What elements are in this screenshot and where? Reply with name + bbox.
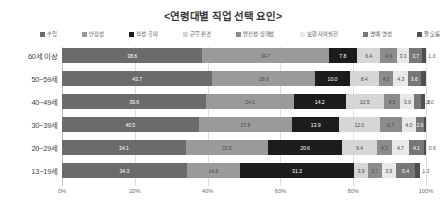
bar-segment-value-label: 1.0 — [428, 53, 435, 59]
bar-segment[interactable] — [424, 117, 426, 132]
bar-segment[interactable]: 4.6 — [380, 48, 397, 63]
bar-segment-value-label: 4.1 — [413, 145, 420, 151]
bar-segment-value-label: 5.4 — [402, 168, 409, 174]
legend-item-label: 명예·명성 — [370, 31, 391, 37]
bar-segment[interactable]: 31.3 — [240, 163, 354, 178]
bar-segment[interactable]: 12.0 — [339, 117, 379, 132]
bar-segment[interactable]: 34.3 — [62, 163, 187, 178]
legend-item-label: 근무 환경 — [190, 31, 211, 37]
bar-segment-value-label: 14.6 — [209, 168, 219, 174]
bar-segment[interactable] — [422, 48, 426, 63]
bar-segment-value-label: 4.2 — [381, 145, 388, 151]
chart-legend: 수입안정성적성·흥미근무 환경발전성·장래성보람·자아실현명예·명성잘 모름 — [40, 28, 440, 40]
bar-segment[interactable]: 14.6 — [187, 163, 240, 178]
bar-segment[interactable]: 43.7 — [62, 71, 212, 86]
bar-segment[interactable]: 3.6 — [408, 71, 420, 86]
legend-item[interactable]: 명예·명성 — [363, 31, 391, 37]
x-axis-tick-label: 40% — [202, 188, 213, 194]
stacked-bar-row: 38.634.77.86.44.63.33.7 — [62, 48, 426, 63]
legend-swatch-icon — [129, 32, 134, 37]
stacked-bar-row: 40.527.813.912.06.74.02.6 — [62, 117, 426, 132]
bar-segment[interactable]: 9.4 — [342, 140, 376, 155]
legend-item[interactable]: 근무 환경 — [183, 31, 211, 37]
bar-segment-value-label: 20.6 — [300, 145, 310, 151]
bar-segment[interactable]: 2.6 — [416, 117, 425, 132]
chart-container: <연령대별 직업 선택 요인> 수입안정성적성·흥미근무 환경발전성·장래성보람… — [0, 0, 446, 208]
bar-segment[interactable]: 34.1 — [62, 140, 186, 155]
legend-item[interactable]: 안정성 — [82, 31, 104, 37]
bar-segment[interactable]: 3.3 — [397, 48, 409, 63]
bar-segment-value-label: 43.7 — [132, 76, 142, 82]
bar-segment-value-label: 7.8 — [339, 53, 346, 59]
bar-segment[interactable] — [421, 71, 427, 86]
bar-segment[interactable]: 14.2 — [294, 94, 346, 109]
bar-segment[interactable]: 7.8 — [329, 48, 357, 63]
bar-segment-value-label: 3.3 — [399, 53, 406, 59]
legend-item-label: 보람·자아실현 — [307, 31, 338, 37]
bar-segment[interactable]: 38.6 — [62, 48, 202, 63]
bar-segment[interactable]: 3.7 — [409, 48, 422, 63]
stacked-bar-row: 43.729.910.08.44.34.33.6 — [62, 71, 426, 86]
legend-item[interactable]: 보람·자아실현 — [300, 31, 338, 37]
bar-segment[interactable]: 22.5 — [186, 140, 268, 155]
x-axis-tick-label: 100% — [419, 188, 433, 194]
chart-title: <연령대별 직업 선택 요인> — [0, 8, 446, 23]
stacked-bar-row: 34.122.520.69.44.24.74.1 — [62, 140, 426, 155]
bar-segment[interactable]: 4.3 — [379, 71, 394, 86]
x-axis-tick-label: 80% — [348, 188, 359, 194]
bar-segment[interactable]: 4.0 — [402, 117, 415, 132]
legend-swatch-icon — [417, 32, 422, 37]
bar-segment[interactable]: 3.9 — [400, 94, 414, 109]
legend-item[interactable]: 적성·흥미 — [129, 31, 157, 37]
bar-segment[interactable]: 8.4 — [350, 71, 379, 86]
plot-area: 1.038.634.77.86.44.63.33.71.643.729.910.… — [62, 47, 426, 186]
legend-item[interactable]: 잘 모름 — [417, 31, 440, 37]
bar-segment[interactable]: 39.6 — [62, 94, 206, 109]
bar-segment[interactable]: 40.5 — [62, 117, 199, 132]
bar-segment-value-label: 4.6 — [385, 53, 392, 59]
bar-segment[interactable]: 6.7 — [380, 117, 403, 132]
legend-swatch-icon — [40, 32, 45, 37]
bar-segment[interactable]: 10.0 — [315, 71, 349, 86]
bar-segment-value-label: 0.6 — [429, 145, 436, 151]
bar-segment-value-label: 40.5 — [125, 122, 135, 128]
bar-segment[interactable]: 4.7 — [392, 140, 409, 155]
legend-swatch-icon — [363, 32, 368, 37]
bar-segment[interactable] — [421, 94, 425, 109]
legend-swatch-icon — [236, 32, 241, 37]
bar-segment[interactable]: 3.9 — [382, 163, 396, 178]
bar-segment[interactable]: 24.1 — [206, 94, 294, 109]
bar-segment[interactable]: 4.3 — [393, 71, 408, 86]
bar-segment[interactable]: 5.4 — [396, 163, 416, 178]
legend-item[interactable]: 발전성·장래성 — [236, 31, 274, 37]
y-axis-category-label: 13~19세 — [0, 163, 58, 178]
x-axis-tick-label: 0% — [58, 188, 66, 194]
bar-segment[interactable]: 13.9 — [292, 117, 339, 132]
bar-segment[interactable]: 4.5 — [384, 94, 400, 109]
bar-segment-value-label: 9.4 — [356, 145, 363, 151]
y-axis-category-label: 50~59세 — [0, 71, 58, 86]
legend-swatch-icon — [183, 32, 188, 37]
bar-segment[interactable] — [424, 140, 426, 155]
bar-segment[interactable]: 3.9 — [354, 163, 368, 178]
bar-segment-value-label: 10.0 — [328, 76, 338, 82]
bar-segment-value-label: 6.7 — [387, 122, 394, 128]
bar-segment[interactable]: 20.6 — [268, 140, 343, 155]
stacked-bar-row: 39.624.114.210.54.53.9 — [62, 94, 426, 109]
y-axis-category-label: 60세 이상 — [0, 48, 58, 63]
bar-segment[interactable]: 4.2 — [377, 140, 392, 155]
bar-segment[interactable]: 6.4 — [357, 48, 380, 63]
bar-segment[interactable]: 3.7 — [368, 163, 381, 178]
legend-item[interactable]: 수입 — [40, 31, 57, 37]
bar-segment[interactable]: 29.9 — [212, 71, 315, 86]
bar-segment-value-label: 34.1 — [119, 145, 129, 151]
bar-segment[interactable]: 4.1 — [409, 140, 424, 155]
bar-segment-value-label: 24.1 — [245, 99, 255, 105]
bar-segment-value-label: 3.6 — [411, 76, 418, 82]
bar-segment[interactable]: 34.7 — [202, 48, 328, 63]
x-axis-tick-label: 60% — [275, 188, 286, 194]
bar-segment[interactable]: 10.5 — [346, 94, 384, 109]
bar-segment[interactable] — [415, 163, 420, 178]
legend-item-label: 안정성 — [89, 31, 104, 37]
bar-segment[interactable]: 27.8 — [199, 117, 293, 132]
